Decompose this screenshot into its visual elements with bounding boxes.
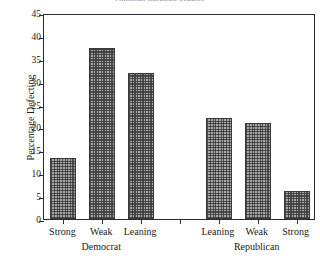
y-tick-label: 5	[36, 193, 41, 203]
chart-figure: National Election Studies Percentage Def…	[0, 0, 320, 273]
x-tick-mark	[141, 219, 142, 224]
plot-area: 051015202530354045	[43, 14, 315, 220]
x-group-label: Republican	[234, 241, 280, 252]
bar	[206, 118, 232, 219]
x-category-label: Leaning	[201, 226, 234, 237]
x-category-label: Strong	[49, 226, 76, 237]
x-tick-mark	[102, 219, 103, 224]
chart-title: National Election Studies	[0, 0, 320, 4]
y-tick-label: 40	[32, 33, 42, 43]
y-tick-label: 0	[36, 216, 41, 226]
x-category-label: Strong	[282, 226, 309, 237]
x-tick-mark	[258, 219, 259, 224]
plot-inner: 051015202530354045	[44, 15, 314, 219]
y-tick-label: 45	[32, 10, 42, 20]
x-category-label: Weak	[245, 226, 268, 237]
bar	[128, 73, 154, 219]
y-tick-label: 35	[32, 56, 42, 66]
y-tick-label: 25	[32, 102, 42, 112]
bar	[245, 123, 271, 219]
y-tick-label: 30	[32, 79, 42, 89]
y-tick-label: 20	[32, 125, 42, 135]
y-tick-label: 15	[32, 148, 42, 158]
x-category-label: Leaning	[124, 226, 157, 237]
y-tick-label: 10	[32, 170, 42, 180]
bar	[284, 191, 310, 219]
x-tick-mark	[63, 219, 64, 224]
x-tick-mark	[219, 219, 220, 224]
x-group-label: Democrat	[82, 241, 121, 252]
x-category-label: Weak	[90, 226, 113, 237]
x-tick-mark	[180, 219, 181, 224]
bar	[50, 158, 76, 219]
x-tick-mark	[297, 219, 298, 224]
bar	[89, 48, 115, 219]
